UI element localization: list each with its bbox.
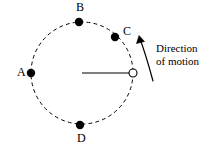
point-label-c: C xyxy=(123,25,131,37)
direction-of-motion-caption: Direction of motion xyxy=(156,42,199,67)
point-dot-a xyxy=(27,69,35,77)
caption-line-2: of motion xyxy=(156,55,199,68)
direction-of-motion-arrow xyxy=(140,39,153,81)
diagram-canvas xyxy=(0,0,206,149)
open-circle-object xyxy=(129,69,137,77)
point-dot-b xyxy=(75,18,83,26)
point-label-d: D xyxy=(77,132,86,144)
caption-line-1: Direction xyxy=(156,42,199,55)
point-dot-d xyxy=(76,121,84,129)
circular-motion-figure: A B C D Direction of motion xyxy=(0,0,206,149)
direction-of-motion-arrowhead xyxy=(137,36,145,44)
point-dot-c xyxy=(111,33,119,41)
point-label-a: A xyxy=(17,66,26,78)
point-label-b: B xyxy=(76,1,84,13)
